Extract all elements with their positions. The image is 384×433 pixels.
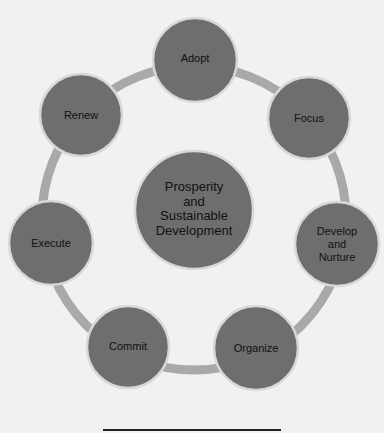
node-label-develop: Develop and Nurture	[295, 225, 379, 264]
node-label-execute: Execute	[9, 237, 93, 250]
node-label-renew: Renew	[40, 109, 122, 122]
center-label: Prosperity and Sustainable Development	[135, 180, 253, 238]
node-label-organize: Organize	[214, 342, 298, 355]
bottom-rule	[103, 429, 281, 431]
node-label-adopt: Adopt	[153, 52, 237, 65]
node-label-focus: Focus	[268, 112, 350, 125]
node-label-commit: Commit	[87, 340, 169, 353]
